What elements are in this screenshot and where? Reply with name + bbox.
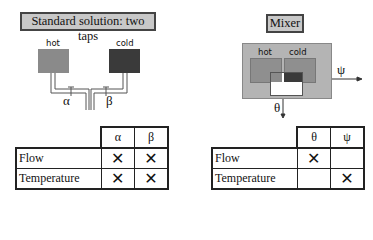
- cell-temp-theta: [297, 169, 331, 190]
- label-theta: θ: [274, 100, 280, 116]
- label-psi: ψ: [337, 62, 345, 78]
- col-theta: θ: [297, 127, 331, 148]
- cell-temp-psi: ✕: [331, 169, 365, 190]
- cell-flow-psi: [331, 148, 365, 169]
- right-control-table: θ ψ Flow ✕ Temperature ✕: [211, 126, 365, 190]
- row-label-temperature: Temperature: [212, 169, 297, 190]
- col-psi: ψ: [331, 127, 365, 148]
- cell-flow-theta: ✕: [297, 148, 331, 169]
- row-label-flow: Flow: [212, 148, 297, 169]
